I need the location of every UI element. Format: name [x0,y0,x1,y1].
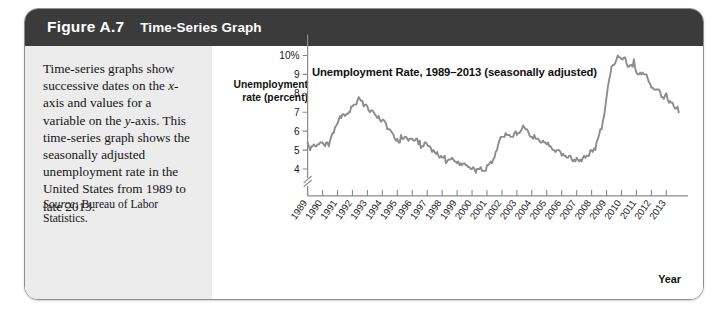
y-tick-label: 5 [294,145,300,156]
y-tick-label: 4 [294,164,300,175]
y-tick-label: 9 [294,69,300,80]
y-tick-label: 10% [279,50,299,61]
figure-header-text: Figure A.7Time-Series Graph [47,18,262,36]
y-tick-label: 7 [294,107,300,118]
source-note: Source: Bureau of Labor Statistics. [43,198,198,226]
caption-part-1: Time-series graphs show successive dates… [43,61,174,93]
time-series-plot: 10%9876541989199019911992199319941995199… [212,46,703,299]
y-axis-break-mark-2 [304,180,312,187]
y-tick-label: 8 [294,88,300,99]
figure-title: Time-Series Graph [140,20,262,35]
x-tick-label: 2013 [647,198,668,222]
source-label: Source: [43,198,79,211]
figure-number: Figure A.7 [47,18,124,35]
figure-body: Time-series graphs show successive dates… [25,46,703,299]
caption-text: Time-series graphs show successive dates… [43,60,193,215]
figure-card: Figure A.7Time-Series Graph Time-series … [24,8,704,300]
figure-header-bar: Figure A.7Time-Series Graph [25,9,703,46]
figure-root: Figure A.7Time-Series Graph Time-series … [0,0,725,315]
unemployment-rate-line [308,55,679,172]
y-tick-label: 6 [294,126,300,137]
chart-area: Unemployment Rate, 1989–2013 (seasonally… [212,46,703,299]
caption-column: Time-series graphs show successive dates… [25,46,212,299]
